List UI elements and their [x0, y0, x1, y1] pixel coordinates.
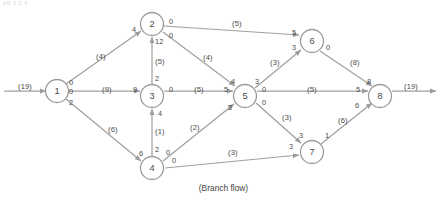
- cap-5-6: (3): [270, 59, 280, 67]
- cap-1-4: (6): [108, 126, 118, 134]
- node-label-4: 4: [149, 163, 154, 173]
- network-graph-canvas: 12345678: [0, 0, 447, 206]
- node-label-2: 2: [149, 19, 154, 29]
- flow-1-3-head: 9: [133, 86, 137, 93]
- figure-caption: (Branch flow): [0, 183, 447, 193]
- cap-1-3: (9): [102, 86, 112, 94]
- flow-4-5-head: 2: [228, 104, 232, 111]
- edge-5-6: [255, 50, 301, 88]
- graph-node-3: 3: [141, 85, 164, 108]
- cap-7-8: (6): [338, 117, 348, 125]
- edge-2-5: [163, 32, 235, 86]
- flow-5-8-head: 5: [356, 86, 360, 93]
- source-arc-capacity: (19): [18, 83, 32, 91]
- flow-1-4-head: 6: [139, 150, 143, 157]
- flow-3-5-tail: 0: [169, 86, 173, 93]
- flow-6-8-head: 8: [367, 78, 371, 85]
- cap-4-5: (2): [190, 124, 200, 132]
- flow-7-8-tail: 1: [325, 132, 329, 139]
- branch-flow-network-figure: AD 6 S 4 12345678 (19): [0, 0, 447, 206]
- graph-node-4: 4: [141, 157, 164, 180]
- graph-node-6: 6: [301, 30, 324, 53]
- node-label-6: 6: [309, 36, 314, 46]
- cap-4-7: (3): [228, 149, 238, 157]
- edge-1-4: [66, 99, 141, 161]
- flow-2-5-head: 4: [231, 78, 235, 85]
- graph-node-1: 1: [46, 80, 69, 103]
- cap-5-8: (5): [307, 86, 317, 94]
- flow-3-2-tail: 2: [155, 75, 159, 82]
- flow-4-7-head: 3: [289, 143, 293, 150]
- flow-3-5-head: 5: [224, 86, 228, 93]
- graph-node-8: 8: [369, 85, 392, 108]
- node-label-8: 8: [377, 91, 382, 101]
- flow-1-2-head: 4: [132, 26, 136, 33]
- flow-3-2-head: 12: [155, 38, 163, 45]
- graph-node-2: 2: [141, 13, 164, 36]
- edge-5-7: [256, 103, 301, 143]
- node-label-5: 5: [242, 91, 247, 101]
- flow-6-8-tail: 0: [326, 44, 330, 51]
- graph-node-5: 5: [234, 85, 257, 108]
- edge-6-8: [320, 51, 372, 86]
- cap-3-5: (5): [194, 86, 204, 94]
- flow-4-5-tail: 0: [166, 149, 170, 156]
- flow-5-6-tail: 3: [255, 78, 259, 85]
- flow-4-7-tail: 0: [172, 157, 176, 164]
- sink-arc-capacity: (19): [404, 83, 418, 91]
- flow-2-6-head: 5: [292, 29, 296, 36]
- node-label-1: 1: [54, 86, 59, 96]
- node-label-3: 3: [149, 91, 154, 101]
- flow-1-4-tail: 2: [69, 99, 73, 106]
- flow-2-6-tail: 0: [169, 18, 173, 25]
- node-label-7: 7: [309, 147, 314, 157]
- cap-5-7: (3): [282, 114, 292, 122]
- cap-2-6: (5): [232, 20, 242, 28]
- flow-1-2-tail: 0: [69, 79, 73, 86]
- cap-4-3: (1): [155, 128, 165, 136]
- flow-4-3-tail: 2: [155, 146, 159, 153]
- flow-2-5-tail: 0: [169, 32, 173, 39]
- edge-4-5: [163, 104, 234, 161]
- flow-5-8-tail: 0: [262, 86, 266, 93]
- flow-4-3-head: 4: [158, 110, 162, 117]
- flow-5-7-head: 3: [299, 132, 303, 139]
- flow-7-8-head: 6: [355, 102, 359, 109]
- cap-3-2: (5): [155, 58, 165, 66]
- graph-node-7: 7: [301, 141, 324, 164]
- cap-6-8: (8): [350, 59, 360, 67]
- flow-5-7-tail: 0: [262, 99, 266, 106]
- cap-1-2: (4): [96, 53, 106, 61]
- flow-1-3-tail: 0: [69, 88, 73, 95]
- cap-2-5: (4): [203, 54, 213, 62]
- flow-5-6-head: 3: [292, 44, 296, 51]
